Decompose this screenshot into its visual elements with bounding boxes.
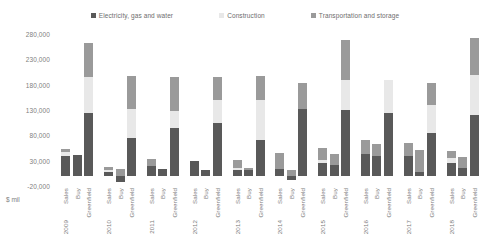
bar-2014-sales[interactable] <box>275 34 284 186</box>
bar-2015-greenfield[interactable] <box>341 34 350 186</box>
bar-segment <box>447 163 456 176</box>
bar-segment <box>275 153 284 169</box>
bar-2016-buy[interactable] <box>372 34 381 186</box>
x-axis-group-2017: SalesBuyGreenfield2017 <box>398 186 441 245</box>
x-axis-year-label: 2016 <box>362 220 369 234</box>
bar-segment <box>384 113 393 176</box>
bar-segment <box>127 76 136 109</box>
bar-2018-sales[interactable] <box>447 34 456 186</box>
bar-group-2016 <box>356 34 399 186</box>
bar-2017-buy[interactable] <box>415 34 424 186</box>
bar-2011-greenfield[interactable] <box>170 34 179 186</box>
bar-2013-buy[interactable] <box>244 34 253 186</box>
legend-label-construction: Construction <box>227 12 265 19</box>
bar-segment <box>372 156 381 176</box>
x-axis-category-label: Greenfield <box>85 188 92 218</box>
x-axis-year-label: 2012 <box>191 220 198 234</box>
x-axis-year-label: 2009 <box>62 220 69 234</box>
chart-container: Electricity, gas and water Construction … <box>0 0 490 245</box>
bar-segment <box>147 159 156 166</box>
bar-2010-sales[interactable] <box>104 34 113 186</box>
bar-2009-sales[interactable] <box>61 34 70 186</box>
bar-segment <box>318 160 327 163</box>
bar-2012-greenfield[interactable] <box>213 34 222 186</box>
bar-segment <box>415 172 424 176</box>
bar-segment <box>372 144 381 155</box>
x-axis-category-label: Greenfield <box>428 188 435 218</box>
bar-2017-sales[interactable] <box>404 34 413 186</box>
x-axis-category-label: Buy <box>159 188 166 199</box>
bar-segment <box>470 75 479 116</box>
bar-2009-greenfield[interactable] <box>84 34 93 186</box>
y-axis-tick-label: 230,000 <box>26 56 50 63</box>
bar-segment <box>170 128 179 176</box>
bar-2009-buy[interactable] <box>73 34 82 186</box>
bar-segment <box>61 149 70 152</box>
x-axis-category-label: Sales <box>276 188 283 204</box>
bar-2011-buy[interactable] <box>158 34 167 186</box>
legend-item-transportation-and-storage[interactable]: Transportation and storage <box>311 12 399 19</box>
bar-2016-sales[interactable] <box>361 34 370 186</box>
x-axis-category-label: Greenfield <box>342 188 349 218</box>
bar-segment <box>170 111 179 128</box>
bar-segment <box>256 140 265 175</box>
y-axis-tick-label: 30,000 <box>30 157 50 164</box>
bar-segment <box>61 156 70 176</box>
x-axis-category-label: Buy <box>117 188 124 199</box>
bar-2010-greenfield[interactable] <box>127 34 136 186</box>
bar-segment <box>415 150 424 172</box>
bar-segment <box>404 156 413 176</box>
bar-2012-sales[interactable] <box>190 34 199 186</box>
bar-segment <box>361 154 370 176</box>
bar-segment <box>341 110 350 176</box>
bar-segment <box>298 109 307 176</box>
legend-label-transportation-and-storage: Transportation and storage <box>319 12 399 19</box>
bar-segment <box>244 168 253 170</box>
x-axis-group-2011: SalesBuyGreenfield2011 <box>142 186 185 245</box>
x-axis-group-2009: SalesBuyGreenfield2009 <box>56 186 99 245</box>
x-axis-year-label: 2015 <box>319 220 326 234</box>
bar-segment <box>213 77 222 100</box>
bar-2018-buy[interactable] <box>458 34 467 186</box>
bar-segment <box>244 170 253 176</box>
bar-2014-buy[interactable] <box>287 34 296 186</box>
bar-2016-greenfield[interactable] <box>384 34 393 186</box>
x-axis-category-label: Greenfield <box>257 188 264 218</box>
bar-2012-buy[interactable] <box>201 34 210 186</box>
plot-area <box>56 34 484 186</box>
bar-segment <box>330 165 339 176</box>
x-axis-category-label: Sales <box>105 188 112 204</box>
legend-item-electricity-gas-and-water[interactable]: Electricity, gas and water <box>91 12 173 19</box>
x-axis-labels: SalesBuyGreenfield2009SalesBuyGreenfield… <box>56 186 484 245</box>
bar-segment <box>104 172 113 176</box>
x-axis-category-label: Greenfield <box>471 188 478 218</box>
legend-label-electricity-gas-and-water: Electricity, gas and water <box>99 12 173 19</box>
bar-2014-greenfield[interactable] <box>298 34 307 186</box>
bar-segment <box>127 109 136 138</box>
x-axis-group-2016: SalesBuyGreenfield2016 <box>356 186 399 245</box>
x-axis-year-label: 2011 <box>148 220 155 234</box>
bar-segment <box>84 43 93 77</box>
x-axis-category-label: Greenfield <box>128 188 135 218</box>
legend-item-construction[interactable]: Construction <box>219 12 265 19</box>
x-axis-year-label: 2018 <box>448 220 455 234</box>
bar-2015-buy[interactable] <box>330 34 339 186</box>
bar-segment <box>84 113 93 176</box>
bar-group-2009 <box>56 34 99 186</box>
x-axis-category-label: Sales <box>234 188 241 204</box>
bar-segment <box>256 76 265 100</box>
bar-2017-greenfield[interactable] <box>427 34 436 186</box>
x-axis-category-label: Buy <box>202 188 209 199</box>
bar-2013-greenfield[interactable] <box>256 34 265 186</box>
bar-segment <box>318 163 327 176</box>
x-axis-category-label: Greenfield <box>171 188 178 218</box>
bar-2013-sales[interactable] <box>233 34 242 186</box>
bar-2018-greenfield[interactable] <box>470 34 479 186</box>
bar-2015-sales[interactable] <box>318 34 327 186</box>
bar-2011-sales[interactable] <box>147 34 156 186</box>
bar-2010-buy[interactable] <box>116 34 125 186</box>
bar-segment <box>404 143 413 155</box>
bar-group-2013 <box>227 34 270 186</box>
bar-segment <box>190 161 199 176</box>
bar-segment <box>233 168 242 170</box>
